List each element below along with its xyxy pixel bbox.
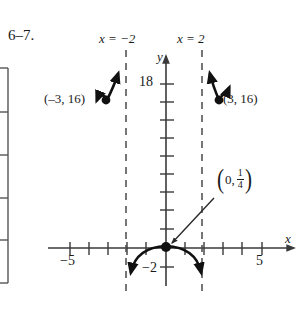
point-label-right: (3, 16): [223, 92, 258, 105]
point-marker-y-intercept: [161, 242, 171, 252]
y-axis-label: y: [157, 50, 163, 63]
fraction-denominator: 4: [237, 179, 244, 191]
asymptote-label-right: x = 2: [177, 32, 205, 45]
x-tick-label-negative-5: −5: [60, 254, 75, 268]
intercept-coordinates: 0, 1 4: [225, 169, 244, 191]
point-label-y-intercept: ( 0, 1 4 ): [216, 166, 253, 193]
open-paren: (: [217, 166, 224, 193]
y-tick-label-negative-2: −2: [142, 261, 157, 275]
x-tick-label-5: 5: [256, 254, 263, 268]
graph-figure: 6–7. x = −2 x = 2 y x 18 −2 −5 5 (–3, 16…: [0, 0, 308, 318]
fraction-numerator: 1: [237, 168, 244, 179]
clipped-table-fragment: [0, 68, 8, 283]
point-label-left: (–3, 16): [44, 92, 85, 105]
x-axis-label: x: [285, 232, 291, 245]
asymptote-label-left: x = −2: [99, 32, 135, 45]
intercept-fraction: 1 4: [237, 168, 244, 190]
exercise-number: 6–7.: [8, 28, 34, 43]
intercept-x-value: 0,: [225, 173, 235, 186]
y-axis-ticks: [160, 84, 174, 267]
y-tick-label-18: 18: [139, 75, 153, 89]
point-marker-left: [102, 96, 111, 105]
leader-line-y-intercept: [172, 198, 214, 243]
close-paren: ): [245, 166, 252, 193]
